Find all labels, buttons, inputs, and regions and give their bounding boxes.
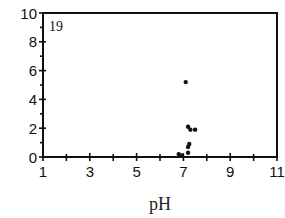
data-points <box>177 80 198 158</box>
scatter-chart: 0246810 1357911 19 pH <box>0 0 285 218</box>
data-point <box>188 127 192 131</box>
plot-frame <box>43 13 277 157</box>
plot-border <box>43 13 277 157</box>
x-tick-label: 5 <box>132 163 140 180</box>
data-point <box>179 153 183 157</box>
x-tick-label: 3 <box>86 163 94 180</box>
data-point <box>184 80 188 84</box>
y-tick-label: 8 <box>29 33 37 50</box>
x-tick-label: 9 <box>226 163 234 180</box>
data-point <box>186 150 190 154</box>
y-tick-label: 6 <box>29 62 37 79</box>
x-axis-title: pH <box>149 194 171 214</box>
x-tick-label: 1 <box>39 163 47 180</box>
y-tick-label: 0 <box>29 149 37 166</box>
y-tick-label: 10 <box>20 5 37 22</box>
x-tick-label: 7 <box>179 163 187 180</box>
panel-label: 19 <box>49 19 63 34</box>
data-point <box>186 145 190 149</box>
data-point <box>193 127 197 131</box>
y-tick-label: 2 <box>29 120 37 137</box>
x-tick-label: 11 <box>269 163 285 180</box>
y-tick-label: 4 <box>29 91 37 108</box>
